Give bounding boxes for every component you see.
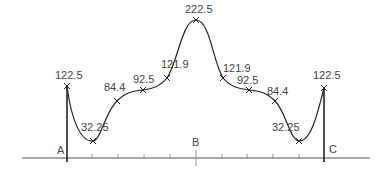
point-value-label: 84.4	[267, 85, 288, 97]
point-value-label: 84.4	[104, 81, 125, 93]
point-value-label: 92.5	[133, 73, 154, 85]
point-value-label: 222.5	[185, 3, 213, 15]
point-value-label: 32.25	[272, 121, 300, 133]
point-value-label: 32.25	[81, 121, 109, 133]
label-b: B	[192, 136, 199, 148]
point-value-label: 122.5	[313, 69, 341, 81]
label-c: C	[329, 143, 337, 155]
point-value-label: 122.5	[55, 69, 83, 81]
point-labels: 122.532.2584.492.5121.9222.5121.992.584.…	[55, 3, 341, 133]
point-value-label: 121.9	[161, 58, 189, 70]
label-a: A	[57, 144, 65, 156]
point-value-label: 92.5	[237, 74, 258, 86]
point-value-label: 121.9	[223, 62, 251, 74]
profile-diagram: 122.532.2584.492.5121.9222.5121.992.584.…	[0, 0, 388, 171]
